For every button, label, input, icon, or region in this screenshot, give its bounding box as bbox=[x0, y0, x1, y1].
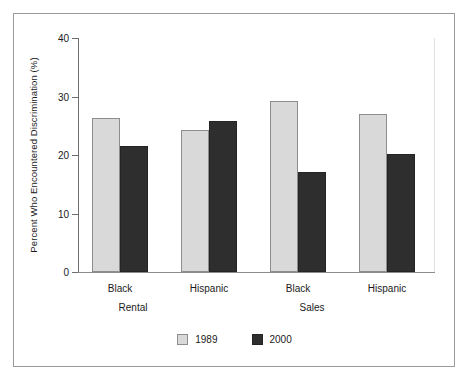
category-label-2: Black bbox=[286, 283, 310, 294]
plot-area: 0 10 20 30 40 bbox=[78, 38, 434, 272]
chart-figure: Percent Who Encountered Discrimination (… bbox=[0, 0, 469, 381]
bar-1989-Black-2 bbox=[270, 101, 298, 272]
y-axis-title: Percent Who Encountered Discrimination (… bbox=[26, 38, 40, 272]
legend-item-1989: 1989 bbox=[177, 334, 217, 345]
y-tick-label-30: 30 bbox=[58, 91, 69, 102]
y-tick-label-10: 10 bbox=[58, 208, 69, 219]
y-tick-label-0: 0 bbox=[63, 267, 69, 278]
category-label-0: Black bbox=[108, 283, 132, 294]
y-tick-label-40: 40 bbox=[58, 33, 69, 44]
legend-label-1989: 1989 bbox=[195, 334, 217, 345]
legend-swatch-icon-1989 bbox=[177, 334, 188, 345]
legend-label-2000: 2000 bbox=[270, 334, 292, 345]
bar-2000-Hispanic-1 bbox=[209, 121, 237, 272]
plot-right-edge bbox=[434, 38, 435, 272]
group-label-rental: Rental bbox=[119, 302, 148, 313]
chart-legend: 1989 2000 bbox=[0, 334, 469, 345]
bar-1989-Black-0 bbox=[92, 118, 120, 272]
bar-1989-Hispanic-3 bbox=[359, 114, 387, 272]
x-axis-line bbox=[78, 272, 435, 273]
legend-item-2000: 2000 bbox=[252, 334, 292, 345]
legend-swatch-icon-2000 bbox=[252, 334, 263, 345]
bar-2000-Hispanic-3 bbox=[387, 154, 415, 272]
bar-2000-Black-2 bbox=[298, 172, 326, 272]
y-tick-label-20: 20 bbox=[58, 150, 69, 161]
bar-1989-Hispanic-1 bbox=[181, 130, 209, 272]
group-label-sales: Sales bbox=[299, 302, 324, 313]
category-label-3: Hispanic bbox=[368, 283, 406, 294]
bar-2000-Black-0 bbox=[120, 146, 148, 272]
category-label-1: Hispanic bbox=[190, 283, 228, 294]
